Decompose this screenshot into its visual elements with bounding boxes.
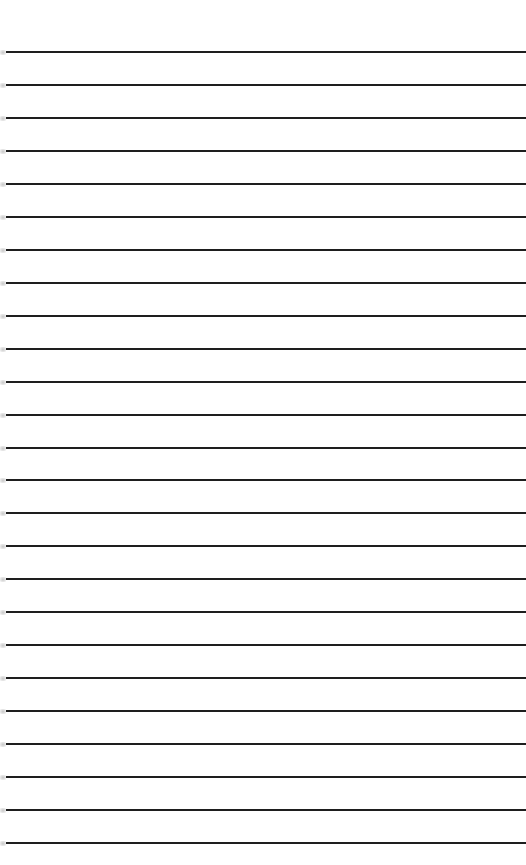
- ruled-line: [6, 315, 526, 317]
- ruled-line: [6, 578, 526, 580]
- lined-paper: [0, 0, 526, 865]
- ruled-line: [6, 51, 526, 53]
- ruled-line: [6, 644, 526, 646]
- ruled-line: [6, 743, 526, 745]
- ruled-line: [6, 348, 526, 350]
- ruled-line: [6, 776, 526, 778]
- ruled-line: [6, 117, 526, 119]
- ruled-line: [6, 282, 526, 284]
- ruled-line: [6, 809, 526, 811]
- ruled-line: [6, 842, 526, 844]
- ruled-line: [6, 381, 526, 383]
- ruled-line: [6, 611, 526, 613]
- ruled-line: [6, 479, 526, 481]
- ruled-line: [6, 150, 526, 152]
- ruled-line: [6, 512, 526, 514]
- ruled-line: [6, 447, 526, 449]
- ruled-line: [6, 710, 526, 712]
- ruled-line: [6, 84, 526, 86]
- ruled-line: [6, 249, 526, 251]
- ruled-line: [6, 183, 526, 185]
- ruled-line: [6, 545, 526, 547]
- ruled-line: [6, 677, 526, 679]
- ruled-line: [6, 216, 526, 218]
- ruled-line: [6, 414, 526, 416]
